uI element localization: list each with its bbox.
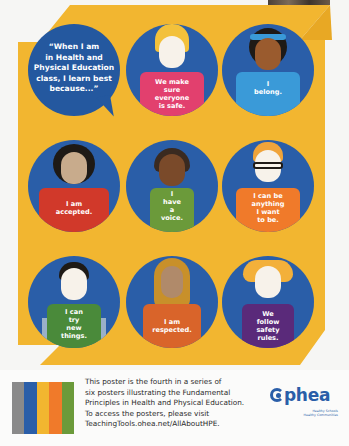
ophea-dot-icon — [276, 393, 281, 398]
figure-belong: Ibelong. — [222, 24, 314, 116]
shirt-text: Wefollowsafetyrules. — [242, 310, 294, 342]
figure-respected: I amrespected. — [126, 256, 218, 348]
figure-accepted: I amaccepted. — [28, 140, 120, 232]
face — [255, 38, 281, 70]
footer-line: Principles in Health and Physical Educat… — [85, 398, 265, 409]
intro-line: class, I learn best — [28, 74, 120, 85]
figure-try: I cantrynewthings. — [28, 256, 120, 348]
footer-description: This poster is the fourth in a series of… — [85, 377, 265, 430]
shirt: I amaccepted. — [39, 188, 109, 232]
shirt: I can beanythingI wantto be. — [236, 188, 300, 232]
ophea-logo: phea Healthy Schools Healthy Communities — [270, 385, 340, 425]
face — [255, 266, 281, 298]
shirt: Wefollowsafetyrules. — [242, 304, 294, 348]
photo-strip — [268, 0, 330, 5]
shirt-text: I can beanythingI wantto be. — [236, 192, 300, 224]
face — [159, 36, 185, 68]
poster: “When I am in Health and Physical Educat… — [0, 0, 349, 446]
shirt: Ihaveavoice. — [150, 188, 194, 232]
footer-line: To access the posters, please visit — [85, 409, 265, 420]
footer-line: This poster is the fourth in a series of — [85, 377, 265, 388]
shirt: We makesureeveryoneis safe. — [140, 72, 204, 116]
stripe-gray — [12, 382, 24, 434]
face — [159, 154, 185, 186]
shirt: I amrespected. — [143, 304, 201, 348]
shirt: I cantrynewthings. — [47, 304, 101, 348]
footer-url[interactable]: TeachingTools.ohea.net/AllAboutHPE. — [85, 419, 265, 430]
glasses-icon — [253, 162, 283, 169]
intro-line: Physical Education — [28, 63, 120, 74]
face — [61, 152, 87, 184]
shirt: Ibelong. — [236, 72, 300, 116]
face — [61, 268, 87, 300]
shirt-text: Ihaveavoice. — [150, 190, 194, 222]
logo-tagline: Healthy Schools Healthy Communities — [304, 409, 338, 417]
shirt-text: I amaccepted. — [39, 200, 109, 216]
stripe-green — [62, 382, 74, 434]
intro-line: in Health and — [28, 53, 120, 64]
face — [161, 266, 183, 298]
stripe-orange — [49, 382, 61, 434]
shirt-text: Ibelong. — [236, 80, 300, 96]
shirt-text: I amrespected. — [143, 318, 201, 334]
intro-quote: “When I am in Health and Physical Educat… — [28, 42, 120, 95]
intro-line: because...” — [28, 84, 120, 95]
color-stripes — [12, 382, 74, 434]
logo-wordmark: phea — [284, 385, 330, 405]
figure-anything: I can beanythingI wantto be. — [222, 140, 314, 232]
stripe-blue — [24, 382, 36, 434]
figure-rules: Wefollowsafetyrules. — [222, 256, 314, 348]
intro-line: “When I am — [28, 42, 120, 53]
figure-safe: We makesureeveryoneis safe. — [126, 24, 218, 116]
footer-line: six posters illustrating the Fundamental — [85, 388, 265, 399]
stripe-yellow — [37, 382, 49, 434]
shirt-text: We makesureeveryoneis safe. — [140, 78, 204, 110]
figure-voice: Ihaveavoice. — [126, 140, 218, 232]
shirt-text: I cantrynewthings. — [47, 308, 101, 340]
